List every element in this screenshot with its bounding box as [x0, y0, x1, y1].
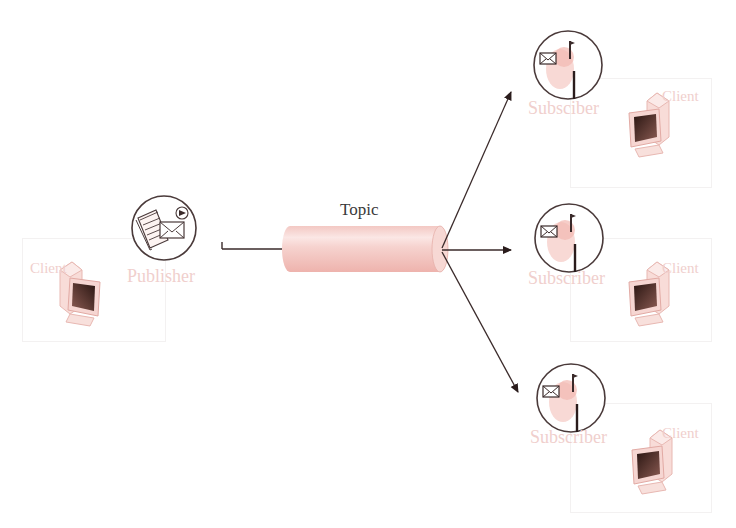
subscriber-3-mailbox-icon: [537, 364, 605, 432]
publisher-to-topic-line: [222, 242, 286, 249]
arrow-to-subscriber-3: [442, 252, 518, 392]
subscriber-2-mailbox-icon: [535, 204, 603, 272]
subscriber-2-client-label: Client: [662, 260, 699, 277]
publisher-client-label: Client: [30, 260, 67, 277]
arrow-to-subscriber-1: [442, 92, 511, 248]
subscriber-1-mailbox-icon: [534, 31, 602, 99]
publisher-label: Publisher: [127, 266, 195, 287]
subscriber-1-client-label: Client: [662, 88, 699, 105]
subscriber-2-label: Subscriber: [528, 268, 605, 289]
subscriber-3-label: Subscriber: [530, 427, 607, 448]
publisher-icon: [132, 196, 196, 260]
subscriber-1-label: Subsciber: [528, 98, 599, 119]
topic-cylinder: [282, 226, 448, 272]
diagram-canvas: [0, 0, 736, 528]
topic-label: Topic: [340, 200, 378, 220]
subscriber-3-client-label: Client: [662, 425, 699, 442]
